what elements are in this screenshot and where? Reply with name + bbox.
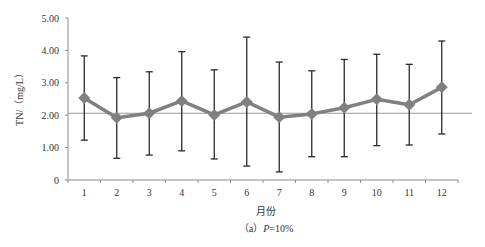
figure-caption: （a）P=10%	[239, 223, 294, 234]
x-tick-label: 4	[179, 187, 184, 198]
x-tick-label: 1	[82, 187, 87, 198]
diamond-marker-icon	[306, 108, 318, 120]
diamond-marker-icon	[338, 102, 350, 114]
y-tick-label: 5.00	[42, 13, 60, 24]
x-tick-label: 3	[147, 187, 152, 198]
y-tick-label: 0	[54, 175, 59, 186]
x-tick-label: 12	[437, 187, 447, 198]
y-axis-label: TN/（mg/L）	[14, 68, 25, 126]
diamond-marker-icon	[176, 95, 188, 107]
y-tick-label: 2.00	[42, 110, 60, 121]
x-tick-label: 11	[404, 187, 414, 198]
y-tick-label: 1.00	[42, 142, 60, 153]
x-tick-label: 2	[114, 187, 119, 198]
caption-prefix: （a）	[239, 223, 263, 234]
y-tick-label: 4.00	[42, 45, 60, 56]
diamond-marker-icon	[143, 107, 155, 119]
caption-suffix: =10%	[269, 223, 293, 234]
caption-variable: P	[262, 223, 269, 234]
diamond-marker-icon	[208, 109, 220, 121]
diamond-marker-icon	[241, 96, 253, 108]
x-tick-label: 10	[372, 187, 382, 198]
diamond-marker-icon	[371, 93, 383, 105]
data-series	[78, 81, 448, 123]
y-tick-label: 3.00	[42, 77, 60, 88]
x-tick-label: 5	[212, 187, 217, 198]
x-axis-label: 月份	[256, 206, 276, 217]
x-tick-label: 9	[342, 187, 347, 198]
x-tick-label: 7	[277, 187, 282, 198]
tn-monthly-chart: 01.002.003.004.005.00123456789101112 TN/…	[0, 0, 485, 247]
error-bars	[81, 37, 446, 172]
x-tick-label: 6	[244, 187, 249, 198]
x-tick-label: 8	[309, 187, 314, 198]
